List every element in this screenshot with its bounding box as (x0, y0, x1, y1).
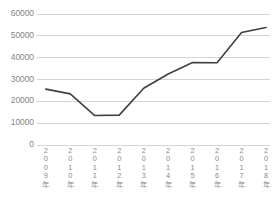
x-axis: 2009年2010年2011年2012年2013年2014年2015年2016年… (37, 147, 270, 200)
line-chart: 0100002000030000400005000060000 2009年201… (0, 0, 276, 200)
y-tick-label: 20000 (0, 96, 34, 105)
data-series-group (46, 28, 266, 116)
x-tick-label: 2015年 (185, 147, 201, 189)
x-tick-label-char: 年 (87, 181, 103, 189)
data-series-line (46, 28, 266, 116)
y-tick-label: 50000 (0, 31, 34, 40)
y-tick-label: 0 (0, 140, 34, 149)
x-tick-label-char: 年 (234, 181, 250, 189)
x-tick-label-char: 年 (136, 181, 152, 189)
x-tick-label: 2010年 (62, 147, 78, 189)
x-tick-label-char: 年 (160, 181, 176, 189)
y-axis: 0100002000030000400005000060000 (0, 0, 34, 200)
x-tick-label: 2016年 (209, 147, 225, 189)
plot-area (37, 14, 270, 145)
y-tick-label: 60000 (0, 9, 34, 18)
x-tick-label: 2014年 (160, 147, 176, 189)
x-tick-label: 2013年 (136, 147, 152, 189)
x-tick-label: 2012年 (111, 147, 127, 189)
x-tick-label-char: 年 (62, 181, 78, 189)
x-tick-label-char: 年 (209, 181, 225, 189)
x-tick-label-char: 年 (111, 181, 127, 189)
x-tick-label: 2011年 (87, 147, 103, 189)
gridlines (37, 14, 270, 145)
x-tick-label: 2009年 (38, 147, 54, 189)
x-tick-label-char: 年 (185, 181, 201, 189)
x-tick-label: 2018年 (258, 147, 274, 189)
y-tick-label: 10000 (0, 118, 34, 127)
x-tick-label-char: 年 (258, 181, 274, 189)
plot-canvas (37, 14, 270, 145)
x-tick-label: 2017年 (234, 147, 250, 189)
x-tick-label-char: 年 (38, 181, 54, 189)
y-tick-label: 40000 (0, 53, 34, 62)
y-tick-label: 30000 (0, 75, 34, 84)
